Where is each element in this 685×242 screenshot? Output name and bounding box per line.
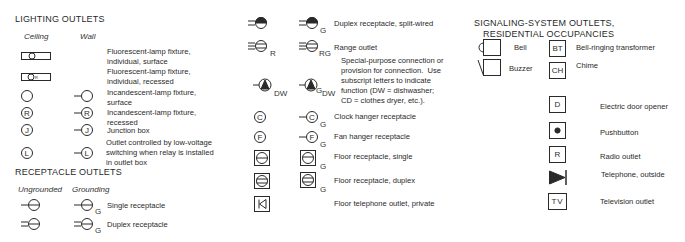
electric-door-opener-icon: D [549,96,566,113]
bell-icon [476,39,504,59]
telephone-outside-icon [549,170,569,188]
fluorescent-surface-icon [21,52,51,62]
duplex-receptacle-grounding-icon [73,218,97,232]
fan-hanger-grounding-icon: F [298,131,320,145]
ground-subscript: G [320,26,326,35]
clock-hanger-grounding-icon: C [298,111,320,125]
bell-ringing-transformer-icon: BT [549,40,566,57]
telephone-outside-label: Telephone, outside [601,170,665,180]
low-voltage-ceiling-icon: L [21,147,35,161]
incandescent-recessed-wall-icon: R [73,107,95,121]
grounding-column-header: Grounding [72,185,109,194]
junction-box-ceiling-icon: J [21,124,35,138]
floor-receptacle-single-icon [254,150,271,167]
incandescent-wall-icon [73,90,95,104]
duplex-split-wired-icon [247,17,271,31]
range-grounding-subscript: RG [319,49,331,58]
signaling-heading-line1: SIGNALING-SYSTEM OUTLETS, [474,18,615,28]
svg-text:F: F [258,133,263,142]
ungrounded-column-header: Ungrounded [18,185,62,194]
fan-hanger-icon: F [254,131,268,145]
lighting-outlets-heading: LIGHTING OUTLETS [15,14,105,24]
clock-hanger-label: Clock hanger receptacle [334,112,416,122]
ground-subscript: G [95,226,101,235]
radio-outlet-label: Radio outlet [600,152,641,162]
television-outlet-icon: TV [548,193,567,210]
ground-subscript: G [320,185,326,194]
ground-subscript: G [320,162,326,171]
incandescent-ceiling-icon [21,90,35,104]
range-subscript: R [270,49,276,58]
svg-text:L: L [25,149,30,158]
floor-receptacle-single-label: Floor receptacle, single [334,152,413,162]
fluorescent-surface-label: Fluorescent-lamp fixture, individual, su… [107,47,191,67]
floor-receptacle-single-grounding-icon [300,150,317,167]
special-purpose-label: Special-purpose connection or provision … [341,56,444,106]
ceiling-column-header: Ceiling [24,32,48,41]
junction-box-label: Junction box [107,126,150,136]
fluorescent-recessed-icon: R [21,73,51,83]
ground-subscript: G [95,207,101,216]
incandescent-recessed-label: Incandescent-lamp fixture, recessed [107,108,196,128]
svg-text:R: R [35,75,38,80]
duplex-split-wired-grounding-icon [298,17,322,31]
television-outlet-label: Television outlet [600,197,654,207]
wall-column-header: Wall [80,32,95,41]
receptacle-outlets-heading: RECEPTACLE OUTLETS [15,167,122,177]
dw-subscript: DW [274,89,287,98]
ground-subscript: G [320,120,326,129]
electric-door-opener-label: Electric door opener [600,102,668,112]
svg-text:C: C [309,113,315,122]
floor-receptacle-duplex-icon [254,173,271,190]
clock-hanger-icon: C [254,111,268,125]
low-voltage-wall-icon: L [73,147,95,161]
pushbutton-icon [549,122,567,140]
duplex-receptacle-label: Duplex receptacle [107,220,168,230]
radio-outlet-icon: R [549,146,566,163]
pushbutton-label: Pushbutton [600,128,638,138]
svg-text:J: J [85,126,89,135]
buzzer-icon [476,59,504,79]
duplex-receptacle-ungrounded-icon [20,218,44,232]
floor-telephone-outlet-label: Floor telephone outlet, private [334,199,434,209]
duplex-split-wired-label: Duplex receptacle, split-wired [334,19,433,29]
ground-subscript: G [320,140,326,149]
incandescent-recessed-ceiling-icon: R [21,107,35,121]
single-receptacle-ungrounded-icon [20,199,44,213]
range-outlet-icon [247,40,271,54]
chime-label: Chime [576,61,598,71]
svg-text:F: F [310,133,315,142]
svg-text:R: R [84,109,90,118]
chime-icon: CH [549,62,566,79]
floor-telephone-outlet-icon [254,196,271,213]
incandescent-surface-label: Incandescent-lamp fixture, surface [107,88,196,108]
range-outlet-label: Range outlet [334,43,377,53]
fan-hanger-label: Fan hanger receptacle [334,132,410,142]
buzzer-label: Buzzer [509,64,533,74]
svg-text:C: C [257,113,263,122]
svg-text:J: J [25,126,29,135]
floor-receptacle-duplex-label: Floor receptacle, duplex [334,176,415,186]
low-voltage-label: Outlet controlled by low-voltage switchi… [106,138,214,168]
single-receptacle-grounding-icon [73,199,97,213]
floor-receptacle-duplex-grounding-icon [300,172,317,189]
dw-grounding-subscript: DW [322,89,335,98]
signaling-heading-line2: RESIDENTIAL OCCUPANCIES [483,29,614,39]
junction-box-wall-icon: J [73,124,95,138]
fluorescent-recessed-label: Fluorescent-lamp fixture, individual, re… [107,67,191,87]
bell-ringing-transformer-label: Bell-ringing transformer [576,43,655,53]
single-receptacle-label: Single receptacle [107,201,165,211]
special-purpose-icon [252,78,276,94]
bell-label: Bell [514,43,527,53]
svg-text:L: L [85,149,90,158]
svg-text:R: R [24,109,30,118]
